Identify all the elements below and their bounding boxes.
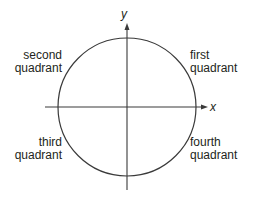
fourth-quadrant-label: fourth quadrant <box>190 136 237 162</box>
unit-circle-diagram <box>0 0 253 197</box>
x-axis-label: x <box>210 100 216 114</box>
y-axis-label: y <box>121 7 127 21</box>
y-axis-arrow-icon <box>125 23 130 30</box>
third-quadrant-line2: quadrant <box>5 149 62 162</box>
x-axis-arrow-icon <box>201 105 208 110</box>
second-quadrant-label: second quadrant <box>5 49 62 75</box>
first-quadrant-label: first quadrant <box>190 49 237 75</box>
fourth-quadrant-line2: quadrant <box>190 149 237 162</box>
first-quadrant-line2: quadrant <box>190 62 237 75</box>
third-quadrant-label: third quadrant <box>5 136 62 162</box>
second-quadrant-line2: quadrant <box>5 62 62 75</box>
